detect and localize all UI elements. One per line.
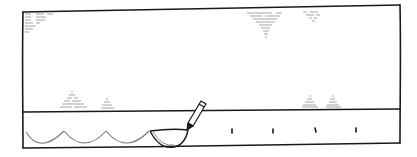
scribble-right-pyramid-1 [302, 96, 318, 107]
pencil-icon [187, 101, 206, 130]
scribble-top-center-triangle [247, 13, 282, 37]
frame-bottom-edge [23, 143, 400, 148]
scribble-top-left [25, 14, 53, 32]
half-bowl-shape [150, 129, 188, 147]
pencil-body [188, 101, 206, 126]
panel-drawing [0, 0, 417, 157]
scribble-top-right-triangle [303, 12, 320, 21]
bowl-rim [150, 129, 188, 131]
bowl-inner-curve [153, 132, 174, 145]
frame-top-edge [23, 5, 400, 12]
arch-1 [26, 131, 64, 143]
tick-3 [315, 128, 316, 132]
tick-marks [232, 128, 356, 133]
panel-frame [23, 5, 401, 148]
ground-divider-line [23, 109, 400, 112]
scribble-left-pyramid-small [101, 99, 114, 108]
scribble-right-pyramid-2 [326, 96, 341, 107]
scribble-left-pyramid-large [60, 92, 87, 107]
arch-3 [106, 131, 149, 143]
arch-2 [64, 131, 106, 143]
scalloped-arches [26, 131, 149, 143]
comic-panel [0, 0, 417, 157]
